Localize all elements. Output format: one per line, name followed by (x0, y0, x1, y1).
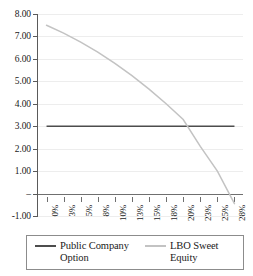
x-axis-label: 23% (204, 205, 213, 221)
legend-line-swatch-icon (35, 240, 56, 251)
y-axis-tick (33, 194, 38, 195)
legend-label: Public Company Option (60, 240, 143, 264)
plot-area (38, 14, 243, 216)
y-axis-tick (33, 104, 38, 105)
y-axis-label: 3.00 (0, 121, 31, 131)
y-axis-tick (33, 14, 38, 15)
y-axis-label: – (0, 189, 31, 199)
x-axis-label: 0% (51, 205, 60, 217)
chart-legend: Public Company OptionLBO Sweet Equity (26, 235, 244, 270)
y-axis-label: 6.00 (0, 54, 31, 64)
x-axis-tick (149, 197, 150, 202)
y-axis-label: 8.00 (0, 9, 31, 19)
y-axis-tick (33, 126, 38, 127)
x-axis-tick (166, 197, 167, 202)
x-axis-zero-line (38, 194, 243, 195)
x-axis-tick (132, 197, 133, 202)
x-axis-tick (217, 197, 218, 202)
y-axis-tick (33, 171, 38, 172)
x-axis-tick (115, 197, 116, 202)
y-axis-label: 1.00 (0, 166, 31, 176)
x-axis-tick (64, 197, 65, 202)
y-axis-label: 4.00 (0, 99, 31, 109)
gridline (38, 149, 243, 150)
x-axis-label: 15% (153, 205, 162, 221)
legend-label: LBO Sweet Equity (170, 240, 243, 264)
x-axis-label: 18% (170, 205, 179, 221)
y-axis-label: -1.00 (0, 211, 31, 221)
gridline (38, 59, 243, 60)
x-axis-tick (200, 197, 201, 202)
y-axis-label: 7.00 (0, 31, 31, 41)
x-axis-tick (183, 197, 184, 202)
x-axis-tick (81, 197, 82, 202)
x-axis-label: 20% (187, 205, 196, 221)
y-axis-tick (33, 36, 38, 37)
chart-figure: 8.007.006.005.004.003.002.001.00–-1.000%… (0, 0, 253, 276)
x-axis-label: 5% (85, 205, 94, 217)
legend-entry: LBO Sweet Equity (145, 240, 243, 264)
y-axis-label: 2.00 (0, 144, 31, 154)
x-axis-label: 8% (102, 205, 111, 217)
x-axis-tick (47, 197, 48, 202)
x-axis-label: 10% (119, 205, 128, 221)
gridline (38, 126, 243, 127)
x-axis-tick (98, 197, 99, 202)
x-axis-label: 13% (136, 205, 145, 221)
y-axis-tick (33, 59, 38, 60)
gridline (38, 36, 243, 37)
y-axis-tick (33, 81, 38, 82)
x-axis-tick (234, 197, 235, 202)
x-axis-label: 28% (238, 205, 247, 221)
x-axis-label: 3% (68, 205, 77, 217)
legend-entry: Public Company Option (35, 240, 143, 264)
y-axis-tick (33, 149, 38, 150)
gridline (38, 171, 243, 172)
y-axis-tick (33, 216, 38, 217)
gridline (38, 14, 243, 15)
x-axis-label: 25% (221, 205, 230, 221)
gridline (38, 81, 243, 82)
y-axis-label: 5.00 (0, 76, 31, 86)
gridline (38, 104, 243, 105)
legend-line-swatch-icon (145, 240, 166, 251)
